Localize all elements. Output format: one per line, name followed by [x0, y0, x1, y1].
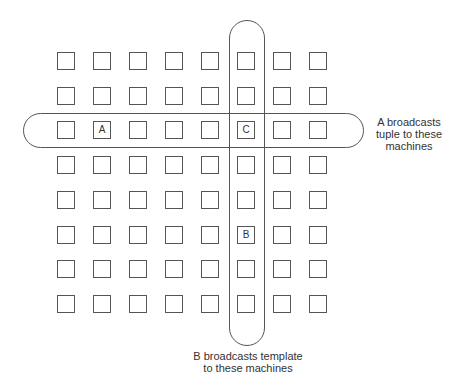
machine-node-b: B	[237, 226, 255, 244]
machine-node	[93, 156, 111, 174]
machine-node	[57, 191, 75, 209]
machine-node	[273, 87, 291, 105]
machine-node	[201, 295, 219, 313]
machine-node-c: C	[237, 121, 255, 139]
machine-node	[165, 156, 183, 174]
machine-node	[201, 260, 219, 278]
row-label-line: A broadcasts	[364, 116, 454, 128]
machine-node	[309, 295, 327, 313]
column-broadcast-label: B broadcasts template to these machines	[170, 350, 326, 374]
machine-node	[57, 156, 75, 174]
machine-node	[129, 156, 147, 174]
machine-node	[201, 87, 219, 105]
machine-node	[165, 87, 183, 105]
machine-node	[129, 295, 147, 313]
machine-node	[309, 191, 327, 209]
machine-node	[201, 121, 219, 139]
machine-node	[93, 295, 111, 313]
machine-node	[129, 191, 147, 209]
machine-node	[237, 156, 255, 174]
machine-node	[129, 226, 147, 244]
machine-node	[93, 260, 111, 278]
machine-node	[57, 87, 75, 105]
machine-node	[237, 260, 255, 278]
col-label-line: B broadcasts template	[170, 350, 326, 362]
machine-node	[237, 87, 255, 105]
machine-node	[309, 156, 327, 174]
machine-node	[273, 260, 291, 278]
machine-node	[273, 226, 291, 244]
machine-node	[309, 87, 327, 105]
machine-node	[57, 52, 75, 70]
machine-node	[237, 191, 255, 209]
machine-node	[165, 191, 183, 209]
machine-node	[201, 226, 219, 244]
row-label-line: machines	[364, 140, 454, 152]
machine-node	[93, 87, 111, 105]
machine-node	[93, 52, 111, 70]
machine-node-a: A	[93, 121, 111, 139]
machine-node	[165, 226, 183, 244]
machine-node	[201, 156, 219, 174]
machine-node	[201, 191, 219, 209]
machine-node	[309, 52, 327, 70]
machine-node	[273, 191, 291, 209]
machine-node	[129, 121, 147, 139]
machine-node	[93, 226, 111, 244]
machine-node	[273, 121, 291, 139]
machine-node	[237, 52, 255, 70]
machine-node	[273, 156, 291, 174]
machine-node	[165, 295, 183, 313]
machine-node	[129, 87, 147, 105]
machine-node	[165, 121, 183, 139]
col-label-line: to these machines	[170, 362, 326, 374]
machine-node	[237, 295, 255, 313]
machine-node	[273, 295, 291, 313]
row-broadcast-label: A broadcasts tuple to these machines	[364, 116, 454, 152]
machine-node	[93, 191, 111, 209]
machine-node	[129, 260, 147, 278]
row-label-line: tuple to these	[364, 128, 454, 140]
machine-node	[129, 52, 147, 70]
machine-node	[309, 121, 327, 139]
machine-node	[309, 226, 327, 244]
machine-node	[57, 226, 75, 244]
machine-node	[57, 295, 75, 313]
machine-node	[273, 52, 291, 70]
machine-node	[201, 52, 219, 70]
machine-node	[309, 260, 327, 278]
machine-node	[165, 260, 183, 278]
machine-node	[57, 121, 75, 139]
machine-node	[57, 260, 75, 278]
machine-node	[165, 52, 183, 70]
